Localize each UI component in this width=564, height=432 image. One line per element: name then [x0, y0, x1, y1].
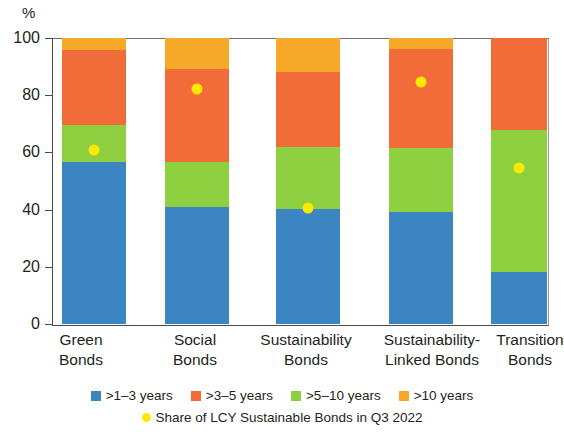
bar-group: [62, 38, 126, 324]
bar-group: [165, 38, 229, 324]
y-axis-tick: [45, 267, 52, 268]
bar-segment: [491, 38, 547, 130]
legend-item[interactable]: >5–10 years: [291, 389, 381, 403]
legend-item[interactable]: >10 years: [399, 389, 474, 403]
legend-swatch-icon: [399, 391, 409, 401]
bar-segment: [165, 207, 229, 324]
legend-row-overlay: Share of LCY Sustainable Bonds in Q3 202…: [0, 411, 564, 425]
x-axis-category-labels: Green BondsSocial BondsSustainability Bo…: [0, 330, 564, 386]
bar-group: [491, 38, 547, 324]
bar-segment: [276, 72, 340, 147]
bar-segment: [389, 212, 453, 324]
y-axis-tick: [45, 38, 52, 39]
y-axis-tick-label: 100: [0, 30, 40, 46]
legend-row-series: >1–3 years>3–5 years>5–10 years>10 years: [0, 389, 564, 403]
stacked-bar-chart: % 020406080100 Green BondsSocial BondsSu…: [0, 0, 564, 432]
legend-item[interactable]: >1–3 years: [91, 389, 173, 403]
bar-segment: [276, 209, 340, 324]
x-axis-label: Transition Bonds: [480, 330, 564, 370]
x-axis-label: Sustainability Bonds: [238, 330, 374, 370]
bar-group: [276, 38, 340, 324]
bar-segment: [276, 38, 340, 72]
legend-label: Share of LCY Sustainable Bonds in Q3 202…: [156, 411, 423, 425]
bar-segment: [62, 38, 126, 50]
bar-stack: [276, 38, 340, 324]
x-axis-label: Green Bonds: [26, 330, 136, 370]
x-axis-label: Social Bonds: [140, 330, 250, 370]
bar-segment: [389, 148, 453, 212]
y-axis-tick: [45, 324, 52, 325]
bar-segment: [165, 162, 229, 207]
bars-layer: [52, 38, 547, 324]
y-axis-tick-label: 40: [0, 202, 40, 218]
legend-label: >3–5 years: [206, 389, 273, 403]
legend-swatch-icon: [191, 391, 201, 401]
legend-label: >5–10 years: [306, 389, 381, 403]
legend-item[interactable]: Share of LCY Sustainable Bonds in Q3 202…: [142, 411, 423, 425]
bar-stack: [62, 38, 126, 324]
share-marker-dot: [513, 163, 524, 174]
y-axis-tick-label: 20: [0, 259, 40, 275]
legend-label: >1–3 years: [106, 389, 173, 403]
bar-segment: [62, 125, 126, 162]
bar-segment: [389, 38, 453, 49]
bar-stack: [165, 38, 229, 324]
share-marker-dot: [89, 145, 100, 156]
share-marker-dot: [302, 202, 313, 213]
bar-stack: [389, 38, 453, 324]
y-axis-tick: [45, 210, 52, 211]
y-axis-tick-label: 80: [0, 87, 40, 103]
bar-segment: [389, 49, 453, 148]
legend-swatch-icon: [142, 413, 151, 422]
y-axis-tick: [45, 95, 52, 96]
bar-segment: [62, 50, 126, 125]
bar-group: [389, 38, 453, 324]
legend-swatch-icon: [91, 391, 101, 401]
bar-segment: [491, 272, 547, 324]
y-axis-tick-label: 60: [0, 144, 40, 160]
share-marker-dot: [192, 84, 203, 95]
legend-label: >10 years: [414, 389, 474, 403]
y-axis-tick: [45, 152, 52, 153]
y-axis-unit-label: %: [22, 4, 36, 21]
bar-segment: [165, 38, 229, 69]
chart-legend: >1–3 years>3–5 years>5–10 years>10 years…: [0, 389, 564, 424]
bar-segment: [491, 130, 547, 272]
bar-stack: [491, 38, 547, 324]
bar-segment: [276, 147, 340, 209]
legend-swatch-icon: [291, 391, 301, 401]
share-marker-dot: [415, 77, 426, 88]
legend-item[interactable]: >3–5 years: [191, 389, 273, 403]
bar-segment: [62, 162, 126, 324]
